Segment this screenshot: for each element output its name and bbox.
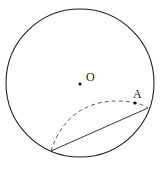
center-point-o xyxy=(78,82,81,85)
geometry-figure: O A xyxy=(0,0,160,171)
label-a: A xyxy=(133,87,142,101)
point-a xyxy=(133,101,136,104)
dashed-fold-arc xyxy=(51,101,148,151)
chord xyxy=(51,108,148,151)
label-o: O xyxy=(86,70,95,84)
